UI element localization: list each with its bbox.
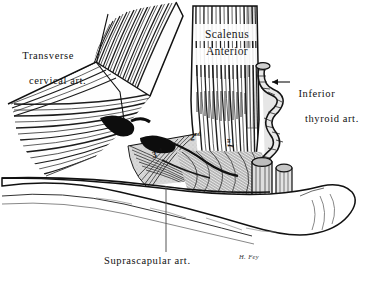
label-scalenus-line1: Scalenus <box>196 26 258 43</box>
rib-marker-second: 2nd <box>190 131 202 143</box>
rib-marker-third: 3rd <box>151 147 164 160</box>
rib3-ordinal: rd <box>155 147 162 154</box>
label-inferior-thyroid-artery: Inferior thyroid art. <box>292 76 359 138</box>
label-tca-line2: cervical art. <box>29 75 86 87</box>
label-scalenus-anterior: Scalenus Anterior <box>196 26 258 61</box>
label-ita-line1: Inferior <box>298 88 335 99</box>
artist-signature: H. Fey <box>239 253 259 260</box>
rib2-ordinal: nd <box>194 131 201 137</box>
rib1-ordinal: st <box>225 138 232 143</box>
label-transverse-cervical-artery: Transverse cervical art. <box>16 38 86 100</box>
label-suprascapular-artery: Suprascapular art. <box>104 255 191 267</box>
label-tca-line1: Transverse <box>22 50 74 61</box>
label-scalenus-line2: Anterior <box>196 43 258 60</box>
anatomical-figure: Transverse cervical art. Inferior thyroi… <box>0 0 378 287</box>
rib-marker-first: 1st <box>224 138 236 149</box>
label-ita-line2: thyroid art. <box>305 113 359 125</box>
